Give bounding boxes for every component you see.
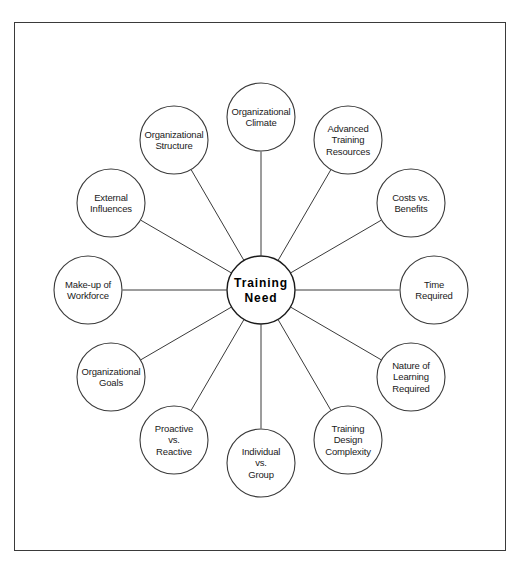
- spoke-line-organizational-structure: [191, 170, 244, 260]
- node-circle-proactive-vs-reactive[interactable]: [140, 406, 208, 474]
- spoke-line-training-design-complexity: [278, 320, 331, 410]
- spoke-line-proactive-vs-reactive: [191, 320, 244, 410]
- node-circle-external-influences[interactable]: [77, 169, 145, 237]
- center-node-circle[interactable]: [227, 256, 295, 324]
- node-circle-individual-vs-group[interactable]: [227, 429, 295, 497]
- spoke-line-external-influences: [141, 220, 231, 273]
- node-circle-advanced-training-resources[interactable]: [314, 106, 382, 174]
- node-circles-group: [54, 83, 468, 497]
- node-circle-time-required[interactable]: [400, 256, 468, 324]
- node-circle-costs-vs-benefits[interactable]: [377, 169, 445, 237]
- node-circle-make-up-of-workforce[interactable]: [54, 256, 122, 324]
- node-circle-nature-of-learning-required[interactable]: [377, 343, 445, 411]
- diagram-page: OrganizationalClimateAdvancedTrainingRes…: [0, 0, 522, 565]
- node-circle-organizational-climate[interactable]: [227, 83, 295, 151]
- spoke-line-costs-vs-benefits: [291, 220, 381, 273]
- spoke-line-organizational-goals: [141, 307, 231, 360]
- radial-diagram-canvas: [0, 0, 522, 565]
- spoke-line-advanced-training-resources: [278, 170, 331, 260]
- spoke-line-nature-of-learning-required: [291, 307, 381, 360]
- node-circle-training-design-complexity[interactable]: [314, 406, 382, 474]
- node-circle-organizational-goals[interactable]: [77, 343, 145, 411]
- node-circle-organizational-structure[interactable]: [140, 106, 208, 174]
